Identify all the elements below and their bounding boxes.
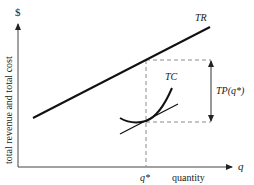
y-axis-label: total revenue and total cost bbox=[3, 56, 14, 164]
q-star-label: q* bbox=[140, 172, 150, 183]
q-axis-symbol: q bbox=[238, 160, 244, 172]
tr-line bbox=[33, 27, 210, 118]
tr-label: TR bbox=[195, 12, 207, 23]
tc-label: TC bbox=[165, 71, 178, 82]
tp-label: TP(q*) bbox=[216, 85, 245, 97]
quantity-label: quantity bbox=[172, 172, 205, 183]
profit-diagram: $ total revenue and total cost q quantit… bbox=[0, 0, 254, 185]
dollar-label: $ bbox=[15, 6, 21, 18]
